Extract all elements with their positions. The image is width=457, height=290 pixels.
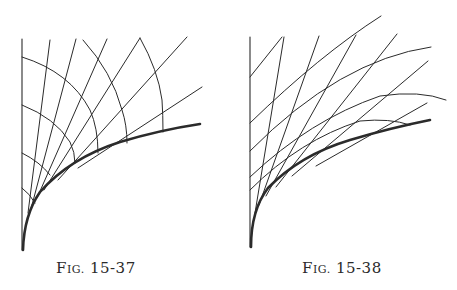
- caption-prefix-initial: F: [302, 259, 313, 277]
- caption-prefix-rest: IG.: [313, 263, 331, 276]
- caption-prefix-rest: IG.: [67, 263, 85, 276]
- figure-caption-right: FIG. 15-38: [302, 259, 382, 277]
- figure-15-37: [22, 37, 202, 250]
- ray-lines-left: [28, 37, 202, 213]
- caption-prefix-initial: F: [56, 259, 67, 277]
- figure-caption-left: FIG. 15-37: [56, 259, 136, 277]
- arc-lines-left: [22, 38, 163, 203]
- caption-number: 15-38: [336, 259, 382, 277]
- base-curve-left: [23, 124, 200, 250]
- base-curve-right: [251, 120, 430, 247]
- straight-lines-right: [250, 34, 428, 213]
- figure-15-38: [250, 16, 446, 247]
- caption-number: 15-37: [90, 259, 136, 277]
- figure-canvas: [0, 0, 457, 290]
- arc-lines-right: [250, 16, 446, 190]
